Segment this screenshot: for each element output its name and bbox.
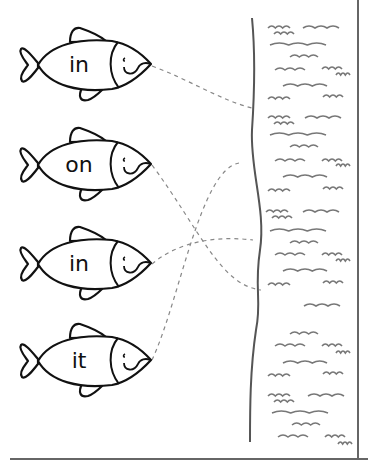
- wave: [303, 210, 339, 212]
- wave: [283, 175, 327, 177]
- fish-word: it: [72, 348, 87, 373]
- wave: [336, 73, 350, 75]
- wave: [278, 435, 308, 437]
- wave: [270, 43, 326, 45]
- match-lines: [152, 66, 261, 360]
- wave: [290, 241, 318, 243]
- wave: [268, 97, 290, 99]
- wave: [268, 26, 290, 28]
- wave: [305, 116, 341, 118]
- wave: [303, 26, 339, 28]
- wave: [275, 68, 305, 70]
- match-line-4[interactable]: [152, 163, 239, 360]
- wave: [283, 269, 327, 271]
- wave: [323, 187, 343, 189]
- fish-word: in: [69, 251, 89, 276]
- wave: [290, 145, 318, 147]
- wave: [266, 210, 288, 212]
- wave: [336, 351, 350, 353]
- wave: [323, 281, 343, 283]
- fish-body: [38, 140, 151, 190]
- fish-word: in: [69, 52, 89, 77]
- fish-word: on: [65, 152, 92, 177]
- wave: [323, 372, 343, 374]
- fish-2[interactable]: on: [20, 128, 151, 201]
- wave: [290, 55, 318, 57]
- wave: [274, 122, 294, 124]
- worksheet-canvas: in on in it: [0, 0, 368, 466]
- fish-tail: [20, 48, 38, 81]
- wave: [283, 361, 327, 363]
- fish-tail: [20, 344, 38, 377]
- match-line-1[interactable]: [152, 66, 252, 108]
- fish-body: [38, 40, 151, 90]
- fish-body: [38, 336, 151, 386]
- fish-3[interactable]: in: [20, 227, 151, 300]
- wave: [283, 84, 327, 86]
- wave: [275, 253, 305, 255]
- match-line-3[interactable]: [152, 239, 253, 264]
- fish-1[interactable]: in: [20, 28, 151, 101]
- wave: [323, 95, 343, 97]
- wave: [292, 423, 320, 425]
- wave: [322, 253, 342, 255]
- wave: [322, 159, 342, 161]
- water-waves: [266, 26, 352, 444]
- wave: [268, 116, 290, 118]
- wave: [268, 283, 290, 285]
- wave: [308, 394, 344, 396]
- wave: [274, 32, 294, 34]
- wave: [270, 229, 326, 231]
- wave: [304, 304, 340, 306]
- wave: [272, 216, 292, 218]
- wave: [270, 133, 326, 135]
- fish-tail: [20, 148, 38, 181]
- fish-body: [38, 239, 151, 289]
- wave: [268, 394, 290, 396]
- wave: [272, 411, 328, 413]
- match-line-2[interactable]: [152, 165, 261, 290]
- wave: [336, 259, 350, 261]
- fish-tail: [20, 247, 38, 280]
- wave: [268, 189, 290, 191]
- wave: [338, 442, 352, 444]
- wave: [322, 344, 342, 346]
- wave: [325, 435, 345, 437]
- fish-4[interactable]: it: [20, 324, 151, 397]
- wave: [275, 344, 305, 346]
- wave: [290, 332, 318, 334]
- wave: [268, 374, 290, 376]
- shoreline: [250, 18, 261, 442]
- wave: [336, 164, 350, 166]
- wave: [322, 67, 342, 69]
- wave: [274, 400, 294, 402]
- wave: [275, 159, 305, 161]
